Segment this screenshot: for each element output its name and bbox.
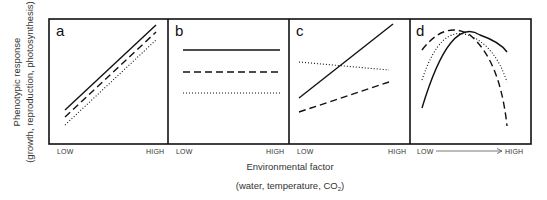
x-axis-subtitle-text: (water, temperature, CO [236,180,338,191]
plot-frame [49,19,531,144]
panel-a-dotted-line [65,40,156,125]
panel-a-letter: a [56,22,64,39]
panel-c-letter: c [296,22,304,39]
panel-c-solid-line [299,24,393,98]
panel-c-low-tick: LOW [297,148,314,155]
panel-d-solid-curve [422,31,507,108]
panel-d-high-tick: HIGH [505,148,523,155]
panel-b-low-tick: LOW [176,148,193,155]
x-axis-title: Environmental factor [49,161,531,172]
panel-b-letter: b [175,22,183,39]
x-axis-subtitle-close: ) [341,180,344,191]
panel-d-dashed-curve [422,30,507,126]
panel-a-high-tick: HIGH [146,148,164,155]
panel-dividers [168,19,410,144]
panel-a-solid-line [65,25,156,110]
reaction-norm-lines [65,24,507,126]
y-axis-title: Phenotypic response [10,1,23,163]
y-axis-label: Phenotypic response (growth, reproductio… [0,0,46,160]
x-axis-subtitle: (water, temperature, CO2) [49,180,531,192]
arrow-icon [436,149,502,154]
panel-d-low-tick: LOW [417,148,434,155]
panel-b-high-tick: HIGH [266,148,284,155]
y-axis-subtitle: (growth, reproduction, photosynthesis) [23,1,36,163]
panel-a-low-tick: LOW [57,148,74,155]
panel-a-dashed-line [65,32,156,117]
panel-d-letter: d [416,22,424,39]
panel-c-high-tick: HIGH [388,148,406,155]
